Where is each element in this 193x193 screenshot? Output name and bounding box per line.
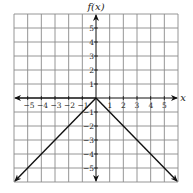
x-tick-label: −4: [37, 101, 48, 110]
y-tick-label: −4: [83, 150, 94, 159]
y-axis-label: f(x): [86, 1, 104, 12]
x-tick-label: 2: [121, 101, 126, 110]
x-tick-label: −5: [23, 101, 34, 110]
y-tick-label: 5: [89, 24, 94, 33]
coordinate-plane: −5 −4 −3 −2 −1 1 2 3 4 5 5 4 3 2 1 −1 −2…: [0, 0, 193, 193]
y-tick-label: −5: [83, 164, 94, 173]
x-tick-label: 4: [149, 101, 154, 110]
x-tick-label: 1: [108, 101, 113, 110]
y-tick-label: 4: [89, 38, 94, 47]
x-tick-label: 5: [162, 101, 167, 110]
x-axis-label: x: [180, 92, 186, 103]
y-tick-label: −2: [83, 122, 94, 131]
y-tick-label: −3: [83, 136, 94, 145]
right-ray: [96, 98, 177, 181]
y-tick-label: 2: [89, 66, 94, 75]
y-tick-label: 1: [89, 80, 94, 89]
x-tick-label: −2: [64, 101, 75, 110]
y-tick-label: 3: [89, 52, 94, 61]
y-tick-label: −1: [83, 108, 94, 117]
x-tick-labels: −5 −4 −3 −2 −1 1 2 3 4 5: [23, 101, 167, 110]
x-tick-label: −3: [50, 101, 61, 110]
x-tick-label: 3: [135, 101, 140, 110]
